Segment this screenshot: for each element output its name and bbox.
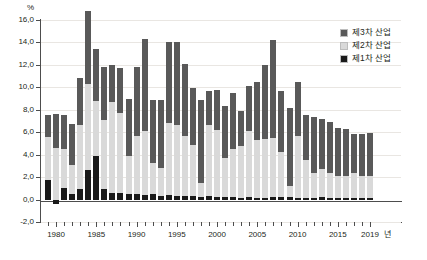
bar-segment-primary — [254, 198, 260, 199]
bar-segment-secondary — [85, 84, 91, 170]
bar-segment-tertiary — [166, 42, 172, 123]
bar-segment-secondary — [214, 130, 220, 197]
bar-segment-primary — [351, 198, 357, 199]
bar-column — [367, 0, 373, 260]
bar-segment-secondary — [343, 176, 349, 198]
bar-segment-primary — [101, 189, 107, 199]
bar-segment-tertiary — [142, 39, 148, 131]
bar-segment-tertiary — [158, 100, 164, 168]
bar-segment-tertiary — [327, 122, 333, 173]
bar-column — [85, 0, 91, 260]
bar-segment-primary — [367, 198, 373, 199]
bar-segment-tertiary — [303, 115, 309, 160]
bar-segment-primary — [166, 195, 172, 199]
bar-segment-tertiary — [287, 108, 293, 187]
bar-segment-tertiary — [319, 119, 325, 170]
bar-segment-primary — [85, 170, 91, 199]
bar-segment-primary — [287, 197, 293, 199]
bar-segment-secondary — [53, 148, 59, 200]
bar-segment-secondary — [335, 176, 341, 198]
bar-segment-primary — [303, 198, 309, 199]
bar-segment-primary — [246, 197, 252, 199]
bar-column — [174, 0, 180, 260]
bar-column — [150, 0, 156, 260]
bar-segment-primary — [69, 194, 75, 200]
bar-column — [278, 0, 284, 260]
bar-segment-primary — [198, 197, 204, 199]
bar-segment-tertiary — [230, 93, 236, 149]
bar-column — [254, 0, 260, 260]
bar-column — [206, 0, 212, 260]
bar-column — [109, 0, 115, 260]
bar-column — [190, 0, 196, 260]
bar-segment-primary — [319, 197, 325, 199]
bar-segment-primary — [359, 198, 365, 199]
bar-segment-secondary — [246, 131, 252, 197]
bar-segment-secondary — [351, 173, 357, 199]
bar-column — [198, 0, 204, 260]
bar-segment-tertiary — [198, 100, 204, 183]
y-axis-label: 0,0 — [0, 196, 34, 204]
bar-segment-tertiary — [206, 91, 212, 126]
y-axis-label: 10,0 — [0, 83, 34, 91]
bar-segment-tertiary — [93, 49, 99, 101]
bar-segment-primary — [182, 196, 188, 199]
bar-segment-secondary — [190, 145, 196, 197]
bar-segment-tertiary — [190, 88, 196, 144]
y-axis-label: 8,0 — [0, 106, 34, 114]
bar-column — [246, 0, 252, 260]
y-axis-tick — [36, 42, 40, 43]
bar-segment-secondary — [101, 120, 107, 190]
bar-segment-secondary — [126, 156, 132, 194]
bar-segment-primary — [142, 195, 148, 199]
bar-segment-secondary — [359, 176, 365, 198]
bar-segment-secondary — [230, 149, 236, 197]
bar-segment-secondary — [254, 140, 260, 198]
bar-segment-primary — [61, 188, 67, 199]
bar-column — [287, 0, 293, 260]
bar-segment-primary — [117, 193, 123, 200]
bar-segment-tertiary — [359, 134, 365, 176]
bar-segment-tertiary — [311, 117, 317, 173]
bar-segment-secondary — [109, 102, 115, 193]
bar-segment-secondary — [182, 136, 188, 197]
bar-segment-primary — [150, 194, 156, 200]
bar-segment-secondary — [174, 125, 180, 196]
bar-segment-tertiary — [238, 111, 244, 146]
bar-segment-tertiary — [254, 82, 260, 140]
bar-column — [45, 0, 51, 260]
x-axis-unit-label: 년 — [384, 231, 391, 239]
bar-segment-secondary — [287, 186, 293, 197]
bar-segment-secondary — [117, 113, 123, 193]
bar-segment-secondary — [142, 131, 148, 195]
bar-segment-secondary — [93, 101, 99, 156]
bar-segment-tertiary — [367, 133, 373, 176]
y-axis-tick — [36, 132, 40, 133]
bar-column — [222, 0, 228, 260]
y-axis-label: 14,0 — [0, 38, 34, 46]
bar-column — [303, 0, 309, 260]
bar-segment-primary — [214, 197, 220, 199]
bar-segment-tertiary — [77, 78, 83, 125]
bar-column — [166, 0, 172, 260]
bar-segment-tertiary — [246, 86, 252, 131]
bar-column — [69, 0, 75, 260]
bar-column — [295, 0, 301, 260]
bar-column — [53, 0, 59, 260]
bar-segment-secondary — [270, 138, 276, 197]
bar-column — [134, 0, 140, 260]
bar-column — [182, 0, 188, 260]
bar-segment-tertiary — [262, 65, 268, 139]
y-axis-tick — [36, 200, 40, 201]
bar-column — [359, 0, 365, 260]
bar-segment-tertiary — [69, 124, 75, 164]
bar-segment-secondary — [134, 136, 140, 194]
y-axis-label: 6,0 — [0, 128, 34, 136]
stacked-bar-chart: % 16,014,012,010,08,06,04,02,00,0-2,0 19… — [0, 0, 427, 260]
bar-segment-tertiary — [85, 11, 91, 84]
bar-column — [158, 0, 164, 260]
bar-column — [101, 0, 107, 260]
bar-segment-tertiary — [295, 82, 301, 136]
y-axis-tick — [36, 20, 40, 21]
y-axis-unit-label: % — [27, 4, 34, 12]
